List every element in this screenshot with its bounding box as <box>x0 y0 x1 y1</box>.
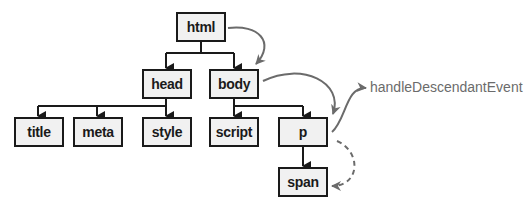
node-head: head <box>142 69 192 99</box>
tree-edges <box>38 42 303 166</box>
node-span: span <box>278 167 328 197</box>
flow-body-to-p <box>263 74 335 114</box>
node-style: style <box>142 117 192 147</box>
flow-p-to-span-dashed <box>332 141 354 186</box>
node-body: body <box>209 69 259 99</box>
handler-label: handleDescendantEvent <box>370 79 523 95</box>
diagram-connectors <box>0 0 524 208</box>
node-p: p <box>278 117 328 147</box>
node-script: script <box>209 117 259 147</box>
node-meta: meta <box>73 117 123 147</box>
flow-p-to-handler <box>332 88 366 132</box>
node-html: html <box>176 12 226 42</box>
node-title: title <box>14 117 64 147</box>
